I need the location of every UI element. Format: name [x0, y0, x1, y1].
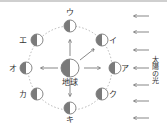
moon-label: イ: [109, 36, 117, 45]
moon-icon: [64, 102, 76, 114]
sunlight-label: 太陽の光: [150, 56, 159, 84]
moon-icon: [31, 88, 43, 100]
moon-label: エ: [19, 36, 27, 45]
moon-icon: [64, 20, 76, 32]
moon-label: ウ: [66, 8, 74, 17]
moon-phase-diagram: 地球アイウエオカキク: [0, 0, 167, 128]
earth-icon: [61, 59, 79, 77]
arrow-diagonal-icon: [80, 49, 94, 60]
moon-label: カ: [19, 90, 27, 99]
moon-icon: [96, 34, 108, 46]
moon-label: オ: [9, 64, 17, 73]
moon-label: ア: [121, 64, 129, 73]
moon-icon: [109, 62, 121, 74]
moon-icon: [20, 62, 32, 74]
moon-label: キ: [66, 115, 74, 124]
moon-label: ク: [109, 90, 117, 99]
moon-icon: [31, 34, 43, 46]
moon-icon: [96, 88, 108, 100]
